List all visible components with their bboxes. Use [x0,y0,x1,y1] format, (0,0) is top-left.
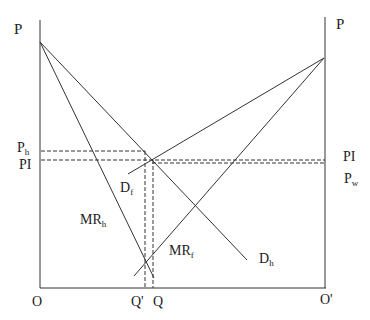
mrh-label: MRh [80,213,106,229]
mrf-label: MRf [169,244,194,260]
pi-label-right: PI [343,150,355,164]
pw-label: Pw [344,172,358,188]
marginal-revenue-mrf [134,58,324,276]
demand-curve-df [128,58,324,174]
q-prime-label: Q' [131,295,144,309]
origin-left-label: O [32,295,42,309]
ph-label: Ph [17,141,29,157]
pi-label-left: PI [19,158,31,172]
q-label: Q [153,295,163,309]
origin-right-label: O' [320,293,333,307]
diagram-canvas [0,0,370,320]
dh-label: Dh [259,252,274,268]
left-axis-label: P [14,22,22,37]
right-axis-label: P [336,17,344,32]
df-label: Df [120,181,133,197]
